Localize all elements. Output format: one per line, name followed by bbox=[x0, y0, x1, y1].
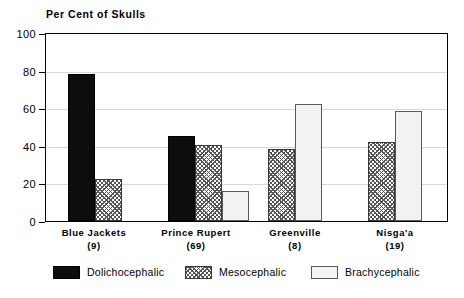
bar-prince-rupert-brachycephalic bbox=[222, 191, 249, 221]
legend-swatch-brachycephalic-icon bbox=[311, 266, 338, 279]
plot-area bbox=[45, 33, 448, 222]
chart-legend: Dolichocephalic Mesocephalic Brachycepha… bbox=[0, 262, 464, 286]
bar-nisgaa-mesocephalic bbox=[368, 142, 395, 221]
category-name: Prince Rupert bbox=[161, 227, 230, 238]
category-name: Nisga'a bbox=[376, 227, 413, 238]
bar-nisgaa-brachycephalic bbox=[395, 111, 422, 221]
category-label-nisgaa: Nisga'a (19) bbox=[376, 227, 413, 252]
legend-label-mesocephalic: Mesocephalic bbox=[219, 266, 286, 278]
bar-blue-jackets-dolichocephalic bbox=[68, 74, 95, 221]
legend-item-dolichocephalic: Dolichocephalic bbox=[53, 262, 164, 282]
chart-figure: Per Cent of Skulls 100 80 60 40 20 0 Blu… bbox=[0, 0, 464, 298]
y-axis-label-100: 100 bbox=[6, 28, 36, 40]
legend-swatch-dolichocephalic-icon bbox=[53, 266, 80, 279]
y-axis-label-20: 20 bbox=[6, 178, 36, 190]
category-label-prince-rupert: Prince Rupert (69) bbox=[161, 227, 230, 252]
y-axis-label-80: 80 bbox=[6, 66, 36, 78]
category-count: (69) bbox=[161, 240, 230, 253]
category-name: Blue Jackets bbox=[62, 227, 127, 238]
legend-swatch-mesocephalic-icon bbox=[185, 266, 212, 279]
bar-prince-rupert-mesocephalic bbox=[195, 145, 222, 221]
bar-greenville-brachycephalic bbox=[295, 104, 322, 221]
chart-title: Per Cent of Skulls bbox=[46, 8, 146, 20]
category-label-greenville: Greenville (8) bbox=[269, 227, 320, 252]
gridline-80 bbox=[46, 72, 447, 73]
category-name: Greenville bbox=[269, 227, 320, 238]
category-label-blue-jackets: Blue Jackets (9) bbox=[62, 227, 127, 252]
y-axis-label-0: 0 bbox=[6, 216, 36, 228]
y-tick-mark-0 bbox=[39, 222, 45, 223]
legend-label-brachycephalic: Brachycephalic bbox=[345, 266, 420, 278]
y-axis-label-60: 60 bbox=[6, 103, 36, 115]
bar-greenville-mesocephalic bbox=[268, 149, 295, 221]
category-count: (9) bbox=[62, 240, 127, 253]
bar-prince-rupert-dolichocephalic bbox=[168, 136, 195, 221]
legend-item-brachycephalic: Brachycephalic bbox=[311, 262, 420, 282]
category-count: (19) bbox=[376, 240, 413, 253]
y-axis-label-40: 40 bbox=[6, 141, 36, 153]
category-count: (8) bbox=[269, 240, 320, 253]
legend-label-dolichocephalic: Dolichocephalic bbox=[87, 266, 164, 278]
gridline-60 bbox=[46, 109, 447, 110]
bar-blue-jackets-mesocephalic bbox=[95, 179, 122, 221]
legend-item-mesocephalic: Mesocephalic bbox=[185, 262, 286, 282]
